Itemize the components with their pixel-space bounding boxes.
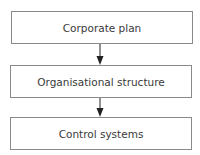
node-corporate-plan: Corporate plan [11, 11, 193, 44]
node-label: Control systems [59, 128, 144, 140]
node-organisational-structure: Organisational structure [10, 65, 192, 98]
node-label: Organisational structure [37, 76, 164, 88]
node-label: Corporate plan [63, 22, 142, 34]
arrow-down-icon [95, 44, 105, 65]
arrow-down-icon [95, 98, 105, 117]
node-control-systems: Control systems [10, 117, 192, 150]
